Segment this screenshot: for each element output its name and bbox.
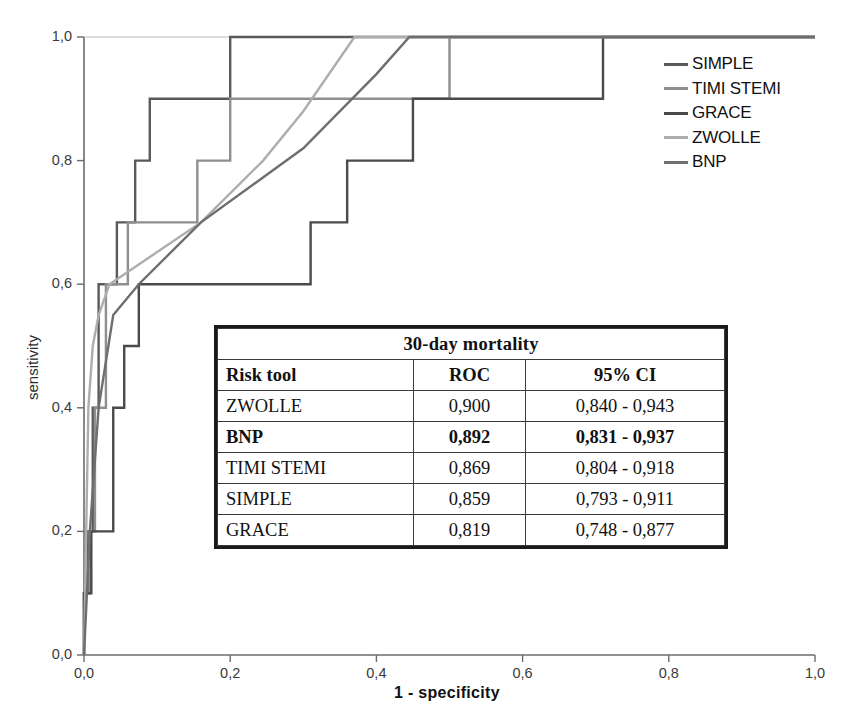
legend-item-grace[interactable]: GRACE <box>664 101 850 126</box>
table-row: TIMI STEMI0,8690,804 - 0,918 <box>218 453 725 484</box>
cell-ci: 0,793 - 0,911 <box>526 484 725 515</box>
cell-ci: 0,804 - 0,918 <box>526 453 725 484</box>
legend-item-label: GRACE <box>692 103 751 123</box>
cell-roc: 0,900 <box>414 391 526 422</box>
cell-roc: 0,892 <box>414 422 526 453</box>
x-tick-label: 0,4 <box>352 665 400 681</box>
cell-tool: TIMI STEMI <box>218 453 414 484</box>
y-tick-label: 0,0 <box>30 646 72 662</box>
y-tick-label: 1,0 <box>30 28 72 44</box>
legend-item-label: SIMPLE <box>692 54 753 74</box>
y-tick-label: 0,2 <box>30 522 72 538</box>
legend-item-bnp[interactable]: BNP <box>664 150 850 175</box>
cell-tool: BNP <box>218 422 414 453</box>
table-title-row: 30-day mortality <box>218 329 725 360</box>
table-row: BNP0,8920,831 - 0,937 <box>218 422 725 453</box>
legend-line-icon <box>664 112 688 115</box>
legend-item-timi-stemi[interactable]: TIMI STEMI <box>664 77 850 102</box>
x-tick-label: 0,2 <box>206 665 254 681</box>
y-tick-label: 0,8 <box>30 152 72 168</box>
x-axis-title: 1 - specificity <box>394 684 500 702</box>
results-table: 30-day mortalityRisk toolROC95% CIZWOLLE… <box>214 325 728 549</box>
x-tick-label: 0,6 <box>499 665 547 681</box>
y-tick-label: 0,4 <box>30 399 72 415</box>
x-tick-label: 0,0 <box>60 665 108 681</box>
table-header-row: Risk toolROC95% CI <box>218 360 725 391</box>
table-row: GRACE0,8190,748 - 0,877 <box>218 515 725 546</box>
table-row: ZWOLLE0,9000,840 - 0,943 <box>218 391 725 422</box>
column-header: Risk tool <box>218 360 414 391</box>
cell-ci: 0,748 - 0,877 <box>526 515 725 546</box>
cell-roc: 0,859 <box>414 484 526 515</box>
column-header: ROC <box>414 360 526 391</box>
cell-tool: ZWOLLE <box>218 391 414 422</box>
column-header: 95% CI <box>526 360 725 391</box>
y-tick-label: 0,6 <box>30 275 72 291</box>
table-title: 30-day mortality <box>218 329 725 360</box>
legend-item-zwolle[interactable]: ZWOLLE <box>664 126 850 151</box>
cell-ci: 0,840 - 0,943 <box>526 391 725 422</box>
x-tick-label: 0,8 <box>645 665 693 681</box>
legend-line-icon <box>664 87 688 90</box>
cell-tool: GRACE <box>218 515 414 546</box>
roc-chart-figure: 0,00,20,40,60,81,0 0,00,20,40,60,81,0 1 … <box>0 0 856 722</box>
cell-ci: 0,831 - 0,937 <box>526 422 725 453</box>
cell-roc: 0,869 <box>414 453 526 484</box>
legend-line-icon <box>664 136 688 139</box>
legend-item-simple[interactable]: SIMPLE <box>664 52 850 77</box>
legend-item-label: TIMI STEMI <box>692 79 781 99</box>
table-row: SIMPLE0,8590,793 - 0,911 <box>218 484 725 515</box>
y-axis-title: sensitivity <box>24 335 41 400</box>
legend-line-icon <box>664 63 688 66</box>
cell-tool: SIMPLE <box>218 484 414 515</box>
legend-item-label: BNP <box>692 152 726 172</box>
chart-legend: SIMPLETIMI STEMIGRACEZWOLLEBNP <box>664 52 850 175</box>
x-tick-label: 1,0 <box>791 665 839 681</box>
cell-roc: 0,819 <box>414 515 526 546</box>
legend-item-label: ZWOLLE <box>692 128 761 148</box>
legend-line-icon <box>664 161 688 164</box>
